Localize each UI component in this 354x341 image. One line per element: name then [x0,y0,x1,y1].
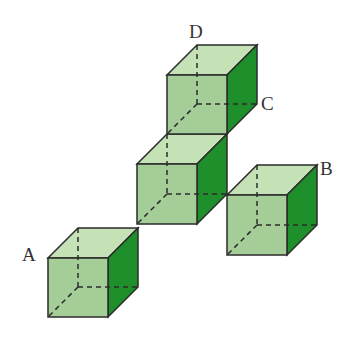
cube-a [48,228,138,317]
cube-diagram: D C B A [0,0,354,341]
cube-top [167,45,257,134]
cube-middle [137,134,227,224]
cube-b [227,165,317,255]
label-b: B [320,158,333,179]
label-c: C [261,93,274,114]
label-a: A [22,244,36,265]
label-d: D [189,21,203,42]
